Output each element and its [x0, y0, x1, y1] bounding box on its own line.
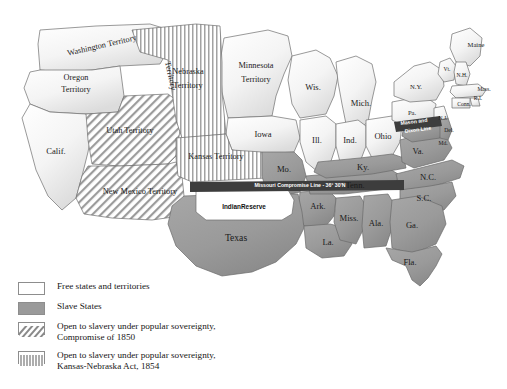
region-massachusetts: [450, 84, 486, 98]
region-michigan: [336, 56, 376, 130]
region-arkansas: [298, 190, 336, 226]
legend-item-popular-sovereignty-1854: Open to slavery under popular sovereignt…: [18, 350, 318, 373]
legend-item-free: Free states and territories: [18, 281, 318, 295]
legend-item-slave: Slave States: [18, 301, 318, 315]
region-delaware: [440, 118, 452, 140]
region-georgia: [390, 196, 446, 254]
diagonal-hatch-icon: [19, 326, 44, 337]
region-oregon-territory: [24, 66, 124, 114]
legend-swatch-slave-icon: [18, 302, 45, 315]
legend-swatch-free-icon: [18, 282, 45, 295]
region-mississippi: [334, 196, 366, 244]
historical-map-figure: Washington Territory Oregon Territory Te…: [0, 0, 507, 389]
legend-label-free: Free states and territories: [57, 281, 150, 292]
missouri-compromise-line: [190, 180, 404, 192]
legend-label-popular-sovereignty-1850: Open to slavery under popular sovereignt…: [57, 321, 216, 344]
region-connecticut: [452, 98, 470, 108]
legend-swatch-vertical-hatch-icon: [18, 351, 45, 364]
map-legend: Free states and territories Slave States: [18, 281, 318, 379]
region-wisconsin: [288, 50, 338, 118]
region-north-carolina: [396, 160, 464, 190]
legend-swatch-diagonal-hatch-icon: [18, 322, 45, 335]
region-iowa: [226, 116, 300, 154]
legend-label-slave: Slave States: [57, 301, 102, 312]
region-indian-reserve: [196, 190, 294, 220]
region-florida: [386, 246, 442, 286]
legend-label-popular-sovereignty-1854: Open to slavery under popular sovereignt…: [57, 350, 216, 373]
legend-item-popular-sovereignty-1850: Open to slavery under popular sovereignt…: [18, 321, 318, 344]
region-new-mexico-territory: [76, 162, 184, 220]
region-rhode-island: [470, 98, 480, 106]
region-minnesota-territory: [220, 30, 292, 118]
region-maine: [450, 28, 482, 66]
region-indiana: [336, 120, 366, 162]
vertical-hatch-icon: [19, 355, 44, 366]
region-new-york: [394, 62, 444, 102]
region-alabama: [362, 194, 394, 248]
